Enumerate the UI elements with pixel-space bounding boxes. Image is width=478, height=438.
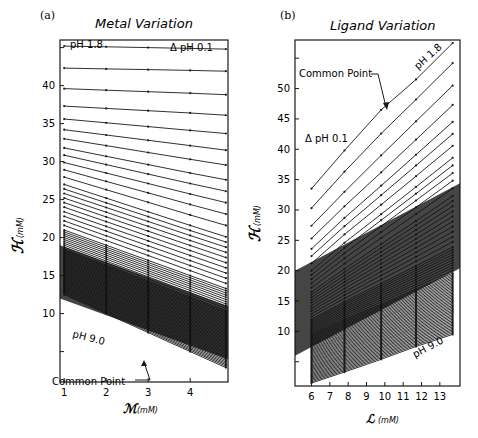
- data-point: [105, 256, 107, 258]
- data-point: [343, 205, 345, 207]
- data-point: [105, 164, 107, 166]
- data-point: [225, 202, 227, 204]
- data-point: [225, 282, 227, 284]
- data-point: [452, 157, 454, 159]
- data-point: [225, 262, 227, 264]
- data-point: [225, 213, 227, 215]
- data-point: [147, 250, 149, 252]
- data-point: [225, 294, 227, 296]
- data-point: [105, 235, 107, 237]
- data-point: [63, 224, 65, 226]
- data-point: [343, 217, 345, 219]
- data-point: [105, 197, 107, 199]
- data-point: [105, 239, 107, 241]
- data-point: [147, 139, 149, 141]
- data-point: [310, 225, 312, 227]
- data-point: [147, 240, 149, 242]
- arrow-head: [383, 102, 389, 110]
- data-point: [189, 281, 191, 283]
- data-point: [380, 154, 382, 156]
- x-tick-label: 6: [308, 391, 314, 402]
- data-point: [189, 264, 191, 266]
- data-point: [63, 138, 65, 140]
- data-point: [415, 78, 417, 80]
- data-point: [63, 183, 65, 185]
- data-point: [147, 151, 149, 153]
- data-point: [189, 249, 191, 251]
- data-point: [189, 214, 191, 216]
- data-point: [343, 242, 345, 244]
- panel-a-plot: 101520253035401234: [42, 40, 228, 398]
- data-point: [147, 47, 149, 49]
- data-point: [147, 230, 149, 232]
- data-point: [105, 107, 107, 109]
- data-point: [225, 366, 227, 368]
- x-tick-label: 2: [103, 387, 109, 398]
- data-point: [189, 158, 191, 160]
- data-point: [63, 67, 65, 69]
- data-point: [310, 237, 312, 239]
- data-point: [63, 88, 65, 90]
- series-line: [64, 155, 226, 191]
- x-tick-label: 4: [187, 387, 193, 398]
- data-point: [225, 287, 227, 289]
- data-point: [105, 252, 107, 254]
- data-point: [310, 248, 312, 250]
- data-point: [147, 110, 149, 112]
- svg-text:(mM): (mM): [253, 205, 262, 226]
- x-tick-label: 10: [378, 391, 391, 402]
- data-point: [225, 301, 227, 303]
- y-tick-label: 20: [277, 265, 290, 276]
- data-point: [189, 234, 191, 236]
- x-tick-label: 11: [397, 391, 410, 402]
- x-tick-label: 13: [433, 391, 446, 402]
- data-point: [63, 240, 65, 242]
- data-point: [189, 224, 191, 226]
- data-point: [343, 225, 345, 227]
- data-point: [63, 147, 65, 149]
- y-tick-label: 15: [42, 270, 55, 281]
- data-point: [225, 298, 227, 300]
- data-point: [63, 118, 65, 120]
- data-point: [452, 180, 454, 182]
- panel-a-ph-end-label: pH 9.0: [72, 328, 107, 347]
- data-point: [105, 221, 107, 223]
- data-point: [63, 211, 65, 213]
- data-point: [415, 193, 417, 195]
- data-point: [105, 258, 107, 260]
- data-point: [147, 270, 149, 272]
- panel-a-label: (a): [40, 9, 55, 22]
- data-point: [105, 202, 107, 204]
- data-point: [147, 91, 149, 93]
- series-line: [64, 89, 226, 95]
- data-point: [63, 242, 65, 244]
- data-point: [63, 45, 65, 47]
- data-point: [147, 261, 149, 263]
- data-point: [380, 109, 382, 111]
- data-point: [225, 277, 227, 279]
- data-point: [225, 190, 227, 192]
- x-tick-label: 7: [327, 391, 333, 402]
- x-tick-label: 3: [145, 387, 151, 398]
- data-point: [225, 267, 227, 269]
- data-point: [225, 236, 227, 238]
- data-point: [63, 161, 65, 163]
- series-line: [64, 68, 226, 71]
- data-point: [343, 371, 345, 373]
- x-tick-label: 9: [363, 391, 369, 402]
- data-point: [105, 254, 107, 256]
- x-tick-label: 1: [61, 387, 67, 398]
- data-point: [225, 296, 227, 298]
- data-point: [415, 154, 417, 156]
- data-point: [380, 213, 382, 215]
- data-point: [105, 206, 107, 208]
- data-point: [105, 155, 107, 157]
- data-point: [63, 235, 65, 237]
- data-point: [225, 132, 227, 134]
- data-point: [147, 263, 149, 265]
- data-point: [63, 129, 65, 131]
- data-point: [105, 248, 107, 250]
- y-tick-label: 45: [277, 113, 290, 124]
- data-point: [343, 149, 345, 151]
- y-tick-label: 15: [277, 296, 290, 307]
